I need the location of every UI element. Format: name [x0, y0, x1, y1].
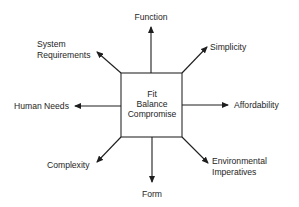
label-function: Function — [135, 12, 168, 22]
label-simplicity: Simplicity — [210, 42, 247, 52]
label-environmental: Environmental — [212, 156, 267, 166]
label-complexity: Complexity — [47, 160, 90, 170]
label-requirements: Requirements — [37, 50, 91, 60]
arrow-environmental-imperatives — [182, 137, 208, 163]
center-label-compromise: Compromise — [128, 109, 177, 119]
label-imperatives: Imperatives — [212, 167, 256, 177]
label-form: Form — [142, 189, 162, 199]
concept-diagram: Fit Balance Compromise Function Simplici… — [0, 0, 299, 207]
center-label-balance: Balance — [136, 99, 167, 109]
arrow-simplicity — [182, 47, 207, 73]
label-system: System — [37, 39, 66, 49]
arrow-system-requirements — [97, 52, 121, 73]
arrow-complexity — [97, 137, 121, 162]
center-label-fit: Fit — [147, 89, 157, 99]
label-human-needs: Human Needs — [14, 101, 69, 111]
label-affordability: Affordability — [234, 100, 279, 110]
